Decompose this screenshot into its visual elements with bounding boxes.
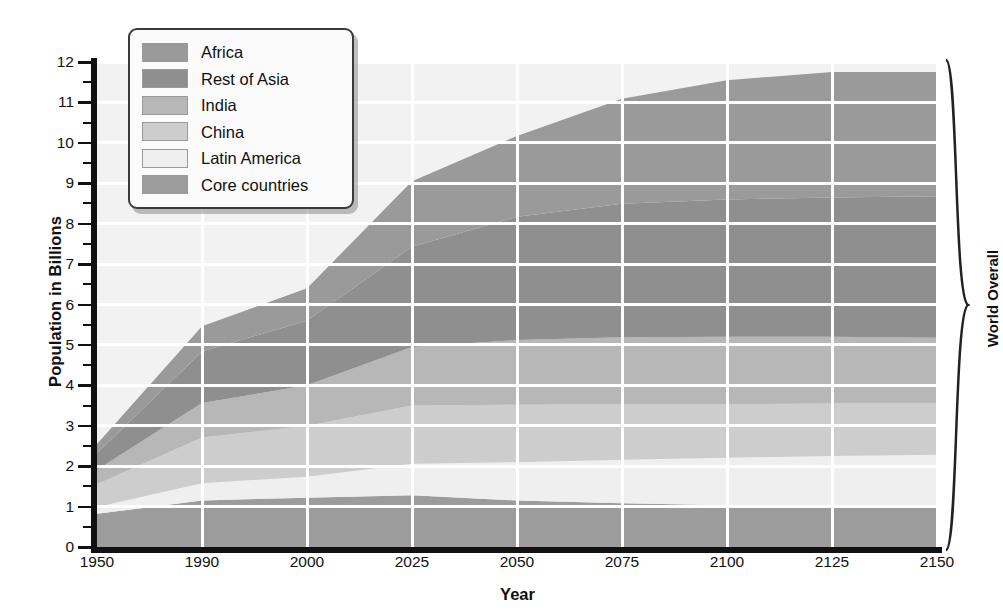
legend-item-label: China xyxy=(201,124,244,141)
vertical-gridline xyxy=(831,62,834,547)
y-tick-minor xyxy=(83,202,91,204)
x-tick-label: 2025 xyxy=(367,553,457,571)
y-tick-label: 12 xyxy=(34,53,74,71)
y-tick-minor xyxy=(83,162,91,164)
y-tick-label: 7 xyxy=(34,255,74,273)
legend-item-india[interactable]: India xyxy=(142,92,342,119)
vertical-gridline xyxy=(936,62,939,547)
legend-item-label: India xyxy=(201,97,237,114)
y-tick-minor xyxy=(83,122,91,124)
legend-item-core-countries[interactable]: Core countries xyxy=(142,172,342,199)
legend-item-label: Rest of Asia xyxy=(201,71,289,88)
x-tick-label: 2050 xyxy=(472,553,562,571)
legend-swatch-icon xyxy=(142,175,188,194)
y-tick-major xyxy=(78,384,91,387)
x-tick-label: 2000 xyxy=(262,553,352,571)
legend-item-label: Africa xyxy=(201,44,243,61)
y-tick-label: 3 xyxy=(34,417,74,435)
y-tick-major xyxy=(78,263,91,266)
vertical-gridline xyxy=(621,62,624,547)
y-axis-line xyxy=(91,58,97,551)
y-tick-minor xyxy=(83,324,91,326)
vertical-gridline xyxy=(516,62,519,547)
world-overall-label: World Overall xyxy=(984,179,1001,419)
y-tick-minor xyxy=(83,526,91,528)
y-tick-minor xyxy=(83,283,91,285)
legend-swatch-icon xyxy=(142,69,188,88)
x-tick-label: 2100 xyxy=(682,553,772,571)
legend-item-africa[interactable]: Africa xyxy=(142,39,342,66)
y-tick-label: 1 xyxy=(34,498,74,516)
y-tick-label: 5 xyxy=(34,336,74,354)
y-tick-major xyxy=(78,142,91,145)
y-tick-label: 10 xyxy=(34,134,74,152)
chart-legend[interactable]: AfricaRest of AsiaIndiaChinaLatin Americ… xyxy=(128,28,354,209)
y-tick-minor xyxy=(83,364,91,366)
legend-item-rest-of-asia[interactable]: Rest of Asia xyxy=(142,66,342,93)
world-overall-brace-icon xyxy=(944,58,970,552)
legend-swatch-icon xyxy=(142,43,188,62)
y-tick-label: 9 xyxy=(34,174,74,192)
legend-item-latin-america[interactable]: Latin America xyxy=(142,145,342,172)
chart-root: Population in Billions 0123456789101112 … xyxy=(0,0,1003,616)
y-tick-label: 6 xyxy=(34,296,74,314)
vertical-gridline xyxy=(726,62,729,547)
y-tick-major xyxy=(78,425,91,428)
y-tick-major xyxy=(78,506,91,509)
legend-swatch-icon xyxy=(142,122,188,141)
y-tick-major xyxy=(78,344,91,347)
y-tick-minor xyxy=(83,405,91,407)
legend-swatch-icon xyxy=(142,96,188,115)
y-tick-label: 11 xyxy=(34,93,74,111)
vertical-gridline xyxy=(411,62,414,547)
x-tick-label: 2075 xyxy=(577,553,667,571)
y-tick-minor xyxy=(83,243,91,245)
y-tick-major xyxy=(78,101,91,104)
y-tick-major xyxy=(78,304,91,307)
y-tick-major xyxy=(78,61,91,64)
y-tick-major xyxy=(78,182,91,185)
x-axis-title: Year xyxy=(97,585,938,604)
y-tick-label: 4 xyxy=(34,376,74,394)
y-tick-major xyxy=(78,223,91,226)
legend-items: AfricaRest of AsiaIndiaChinaLatin Americ… xyxy=(142,39,342,198)
y-tick-major xyxy=(78,546,91,549)
legend-swatch-icon xyxy=(142,149,188,168)
y-tick-label: 2 xyxy=(34,457,74,475)
y-tick-minor xyxy=(83,81,91,83)
x-tick-label: 1990 xyxy=(157,553,247,571)
y-tick-minor xyxy=(83,485,91,487)
legend-item-label: Core countries xyxy=(201,177,308,194)
legend-item-china[interactable]: China xyxy=(142,119,342,146)
x-tick-label: 2150 xyxy=(892,553,982,571)
y-tick-label: 8 xyxy=(34,215,74,233)
y-tick-major xyxy=(78,465,91,468)
y-tick-minor xyxy=(83,445,91,447)
x-tick-label: 2125 xyxy=(787,553,877,571)
legend-item-label: Latin America xyxy=(201,150,301,167)
x-tick-label: 1950 xyxy=(52,553,142,571)
